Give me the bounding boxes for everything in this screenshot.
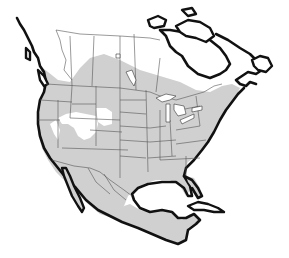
newfoundland [252,56,272,72]
arctic-island-small [182,8,196,16]
cuba [188,202,224,212]
small-lake-saskatchewan [116,54,120,58]
lake-michigan [166,104,170,122]
north-america-map-svg [0,0,289,258]
range-map [0,0,289,258]
haida-gwaii [26,48,30,60]
arctic-island [148,16,166,28]
